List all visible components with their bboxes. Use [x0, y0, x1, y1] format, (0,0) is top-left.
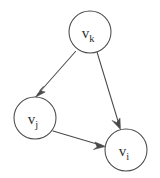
edge-vk-to-vi — [97, 52, 121, 130]
edge-vk-to-vi-arrowhead — [112, 118, 121, 130]
figure-canvas: vk vj vi — [0, 0, 160, 178]
node-vk-circle[interactable] — [69, 11, 111, 53]
node-vi[interactable]: vi — [105, 129, 147, 171]
directed-graph-svg: vk vj vi — [0, 0, 160, 178]
edge-vk-to-vj-line — [38, 52, 76, 95]
edge-vk-to-vi-line — [97, 52, 120, 126]
node-vk[interactable]: vk — [69, 11, 111, 53]
node-vk-label-subscript: k — [89, 33, 95, 44]
edge-vk-to-vj — [35, 52, 76, 98]
node-vj[interactable]: vj — [14, 97, 56, 139]
edge-vj-to-vi-arrowhead — [93, 142, 105, 150]
node-vj-label-subscript: j — [34, 119, 38, 130]
node-vi-label-subscript: i — [126, 151, 129, 162]
edge-vj-to-vi — [53, 131, 106, 150]
edge-vj-to-vi-line — [53, 131, 102, 146]
